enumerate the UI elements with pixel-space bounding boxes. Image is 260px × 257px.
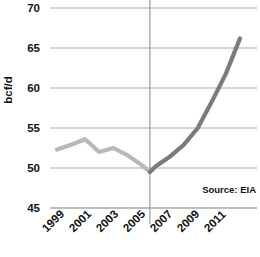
source-note: Source: EIA: [202, 184, 256, 195]
series-line-projection: [150, 38, 240, 172]
series-line-history: [57, 139, 150, 172]
gridlines: [50, 8, 257, 208]
chart-container: bcf/d 70 65 60 55 50 45 1999 2001 2003 2…: [0, 0, 260, 257]
